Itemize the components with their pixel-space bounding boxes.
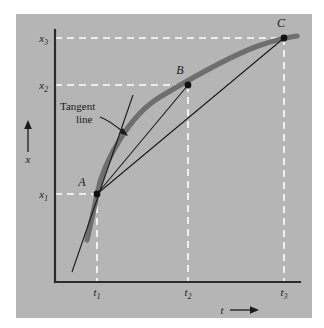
y-tick-x3-sub: 3 <box>43 38 48 47</box>
y-tick-x1-sub: 1 <box>44 194 48 203</box>
x-tick-t3-sub: 3 <box>283 292 288 301</box>
position-time-chart: A B C x3 x2 x1 t1 t2 t3 x t <box>0 0 324 328</box>
tangent-annotation-line1: Tangent <box>60 100 95 112</box>
point-label-c: C <box>277 16 286 30</box>
chart-panel <box>16 14 312 318</box>
point-label-b: B <box>176 63 184 77</box>
x-tick-t2-sub: 2 <box>188 292 192 301</box>
point-a-marker <box>94 191 101 198</box>
x-tick-t1-sub: 1 <box>97 292 101 301</box>
y-tick-x2-sub: 2 <box>44 85 48 94</box>
y-axis-name-label: x <box>25 153 31 165</box>
point-b-marker <box>185 82 192 89</box>
point-c-marker <box>281 35 288 42</box>
tangent-annotation-line2: line <box>76 113 93 125</box>
point-label-a: A <box>77 175 86 189</box>
figure-container: A B C x3 x2 x1 t1 t2 t3 x t <box>0 0 324 328</box>
